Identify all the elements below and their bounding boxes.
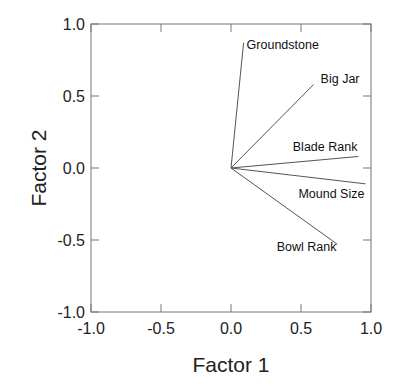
vector-label: Blade Rank <box>293 140 358 154</box>
axis-ticks: -1.0-0.50.00.51.01.00.50.0-0.5-1.0 <box>57 16 382 337</box>
x-tick-label: 1.0 <box>360 320 382 337</box>
vector-label: Bowl Rank <box>277 240 337 254</box>
y-tick-label: -1.0 <box>57 304 85 321</box>
loading-vectors: GroundstoneBig JarBlade RankMound SizeBo… <box>231 38 365 255</box>
y-axis-label: Factor 2 <box>27 129 50 206</box>
y-tick-label: 0.0 <box>63 160 85 177</box>
vector-line <box>231 156 358 168</box>
y-tick-label: -0.5 <box>57 232 85 249</box>
x-tick-label: 0.5 <box>290 320 312 337</box>
vector-label: Big Jar <box>321 72 360 86</box>
y-tick-label: 0.5 <box>63 88 85 105</box>
vector-label: Mound Size <box>298 187 364 201</box>
x-axis-label: Factor 1 <box>192 353 269 376</box>
x-tick-label: -1.0 <box>77 320 105 337</box>
vector-line <box>231 43 244 168</box>
y-tick-label: 1.0 <box>63 16 85 33</box>
x-tick-label: 0.0 <box>220 320 242 337</box>
vector-line <box>231 168 337 244</box>
loading-plot: -1.0-0.50.00.51.01.00.50.0-0.5-1.0 Groun… <box>0 0 394 388</box>
vector-line <box>231 168 365 184</box>
x-tick-label: -0.5 <box>147 320 175 337</box>
vector-label: Groundstone <box>247 38 319 52</box>
vector-line <box>231 84 314 168</box>
